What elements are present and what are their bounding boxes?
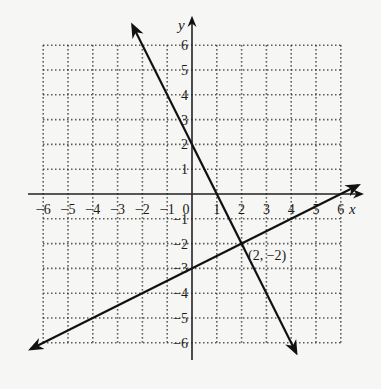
y-tick-label: 6: [181, 38, 188, 53]
plotted-lines: [31, 25, 358, 352]
y-tick-label: −2: [173, 237, 188, 252]
x-tick-label: 6: [337, 202, 344, 217]
x-tick-label: 2: [238, 202, 245, 217]
y-tick-label: 1: [181, 162, 188, 177]
x-tick-label: −5: [61, 202, 76, 217]
x-tick-label: 1: [213, 202, 220, 217]
coordinate-graph: −6−5−4−3−2−10123456 123456−1−2−3−4−5−6 x…: [0, 0, 381, 389]
x-tick-label: −4: [85, 202, 100, 217]
x-tick-label: −6: [36, 202, 51, 217]
y-tick-label: −1: [173, 212, 188, 227]
intersection-label: (2, −2): [248, 248, 287, 264]
y-tick-label: −5: [173, 311, 188, 326]
y-tick-label: 5: [181, 63, 188, 78]
line1-graph: [132, 25, 296, 352]
x-tick-label: −2: [135, 202, 150, 217]
y-axis-label: y: [176, 17, 185, 33]
x-tick-label: 4: [288, 202, 295, 217]
line2-graph: [31, 185, 358, 349]
y-tick-label: −6: [173, 336, 188, 351]
y-tick-label: −4: [173, 286, 188, 301]
x-axis-label: x: [348, 201, 356, 217]
y-tick-label: 2: [181, 137, 188, 152]
y-tick-label: 4: [181, 88, 188, 103]
x-tick-label: 3: [263, 202, 270, 217]
x-tick-label: −3: [110, 202, 125, 217]
